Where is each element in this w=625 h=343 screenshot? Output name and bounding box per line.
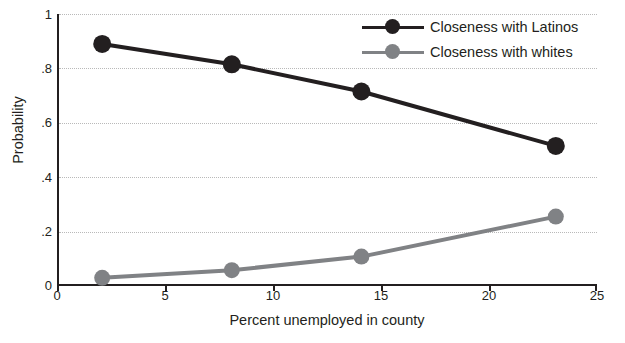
y-tick-label-04: .4 <box>6 171 52 184</box>
series-line-closeness-with-whites <box>102 217 556 278</box>
x-tick-label-10: 10 <box>253 288 293 303</box>
legend-swatch-latinos <box>362 17 424 37</box>
legend-marker-whites <box>385 44 400 59</box>
x-tick-label-0: 0 <box>37 288 77 303</box>
x-axis-tick-labels: 0 5 10 15 20 25 <box>57 288 597 308</box>
legend-marker-latinos <box>385 19 400 34</box>
x-tick-label-20: 20 <box>469 288 509 303</box>
legend-swatch-whites <box>362 42 424 62</box>
x-tick-label-15: 15 <box>361 288 401 303</box>
data-point-whites-4 <box>548 209 564 225</box>
data-point-latinos-1 <box>93 35 111 53</box>
chart-container: Probability 1 .8 .6 .4 .2 0 <box>0 0 625 343</box>
legend-label-whites: Closeness with whites <box>424 44 573 60</box>
legend-item-closeness-with-latinos: Closeness with Latinos <box>362 14 598 39</box>
data-point-whites-2 <box>224 262 240 278</box>
y-tick-label-02: .2 <box>6 225 52 238</box>
data-point-latinos-2 <box>223 55 241 73</box>
y-tick-label-08: .8 <box>6 62 52 75</box>
chart-legend: Closeness with Latinos Closeness with wh… <box>362 14 598 64</box>
x-tick-label-25: 25 <box>577 288 617 303</box>
data-point-whites-1 <box>94 270 110 286</box>
data-point-latinos-4 <box>547 137 565 155</box>
y-axis-tick-labels: 1 .8 .6 .4 .2 0 <box>0 14 52 286</box>
legend-label-latinos: Closeness with Latinos <box>424 19 578 35</box>
x-tick-label-5: 5 <box>145 288 185 303</box>
y-tick-label-06: .6 <box>6 116 52 129</box>
x-axis-title: Percent unemployed in county <box>57 312 597 328</box>
legend-item-closeness-with-whites: Closeness with whites <box>362 39 598 64</box>
data-point-whites-3 <box>353 249 369 265</box>
data-point-latinos-3 <box>352 83 370 101</box>
y-tick-label-1: 1 <box>6 8 52 21</box>
